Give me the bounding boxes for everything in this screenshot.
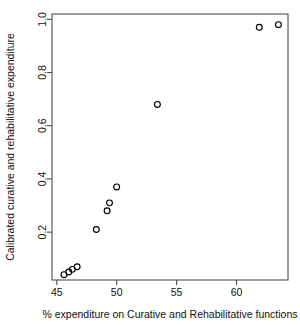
plot-canvas: 0.20.40.60.81.0 45505560 % expenditure o… <box>0 0 300 325</box>
y-tick-label: 0.6 <box>36 118 48 133</box>
x-axis-title: % expenditure on Curative and Rehabilita… <box>42 308 297 320</box>
y-tick-label: 0.8 <box>36 65 48 80</box>
y-axis-title: Calibrated curative and rehabilitative e… <box>4 33 16 261</box>
x-tick-label: 45 <box>51 286 63 298</box>
data-point <box>276 22 282 28</box>
y-axis-ticks: 0.20.40.60.81.0 <box>36 12 52 240</box>
data-point <box>256 24 262 30</box>
x-tick-label: 55 <box>171 286 183 298</box>
data-point <box>93 227 99 233</box>
x-axis-ticks: 45505560 <box>51 280 243 298</box>
scatter-plot-figure: 0.20.40.60.81.0 45505560 % expenditure o… <box>0 0 300 325</box>
plot-frame <box>52 14 288 280</box>
data-point <box>104 208 110 214</box>
y-tick-label: 0.4 <box>36 171 48 186</box>
x-tick-label: 60 <box>231 286 243 298</box>
y-tick-label: 0.2 <box>36 225 48 240</box>
data-point <box>155 102 161 108</box>
data-point <box>74 264 80 270</box>
y-tick-label: 1.0 <box>36 12 48 27</box>
data-points-group <box>61 22 281 278</box>
data-point <box>114 184 120 190</box>
x-tick-label: 50 <box>111 286 123 298</box>
data-point <box>107 200 113 206</box>
